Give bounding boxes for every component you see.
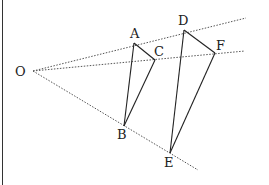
frame-left-border xyxy=(2,0,3,185)
ray-1 xyxy=(33,51,245,71)
segment-AB xyxy=(124,43,134,126)
segment-AC xyxy=(134,43,155,60)
label-F: F xyxy=(216,38,225,53)
segment-FE xyxy=(170,53,215,153)
triangle-segments xyxy=(124,30,215,153)
label-B: B xyxy=(117,127,127,142)
label-A: A xyxy=(129,26,140,41)
label-D: D xyxy=(178,13,188,28)
geometry-diagram: O A C D F B E xyxy=(0,0,269,185)
segment-DF xyxy=(184,30,215,53)
segment-DE xyxy=(170,30,184,153)
label-E: E xyxy=(164,155,174,170)
ray-0 xyxy=(33,18,246,71)
diagram-svg: O A C D F B E xyxy=(0,0,269,185)
label-O: O xyxy=(15,64,26,79)
label-C: C xyxy=(154,44,164,59)
segment-CB xyxy=(124,60,155,126)
